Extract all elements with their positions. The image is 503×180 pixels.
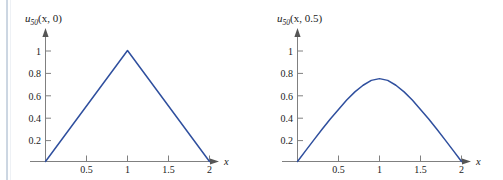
data-curve [46, 51, 210, 162]
y-tick-label-1: 1 [36, 46, 41, 57]
y-tick-label-0.2: 0.2 [281, 135, 294, 146]
plot-right: 0.2 0.4 0.6 0.8 1 0.5 1 1.5 2 u50(x, 0.5… [252, 0, 503, 180]
x-tick-label-2: 2 [459, 164, 464, 175]
y-tick-label-0.8: 0.8 [29, 68, 42, 79]
y-tick-label-0.8: 0.8 [281, 68, 294, 79]
x-axis-title: x [223, 156, 229, 167]
figure-right: 0.2 0.4 0.6 0.8 1 0.5 1 1.5 2 u50(x, 0.5… [252, 0, 503, 180]
y-tick-label-1: 1 [288, 46, 293, 57]
y-axis-title-args: (x, 0.5) [290, 12, 322, 25]
y-axis-title: u50(x, 0) [25, 12, 62, 27]
x-tick-label-1.5: 1.5 [162, 164, 175, 175]
y-tick-label-0.6: 0.6 [29, 91, 42, 102]
y-tick-label-0.4: 0.4 [29, 113, 42, 124]
x-tick-label-1.5: 1.5 [414, 164, 427, 175]
x-tick-label-1: 1 [377, 164, 382, 175]
y-tick-label-0.4: 0.4 [281, 113, 294, 124]
x-tick-label-0.5: 0.5 [332, 164, 345, 175]
data-curve [298, 79, 462, 162]
y-axis-arrowhead [42, 28, 48, 37]
x-tick-label-2: 2 [207, 164, 212, 175]
figure-left: 0.2 0.4 0.6 0.8 1 0.5 1 1.5 2 u50(x, 0) … [0, 0, 251, 180]
x-tick-label-0.5: 0.5 [80, 164, 93, 175]
x-axis-title: x [475, 156, 481, 167]
y-tick-label-0.6: 0.6 [281, 91, 294, 102]
y-axis-arrowhead [294, 28, 300, 37]
y-tick-label-0.2: 0.2 [29, 135, 42, 146]
x-tick-label-1: 1 [125, 164, 130, 175]
plot-left: 0.2 0.4 0.6 0.8 1 0.5 1 1.5 2 u50(x, 0) … [0, 0, 251, 180]
y-axis-title-args: (x, 0) [38, 12, 62, 25]
figure-page: 0.2 0.4 0.6 0.8 1 0.5 1 1.5 2 u50(x, 0) … [0, 0, 503, 180]
y-axis-title: u50(x, 0.5) [277, 12, 322, 27]
